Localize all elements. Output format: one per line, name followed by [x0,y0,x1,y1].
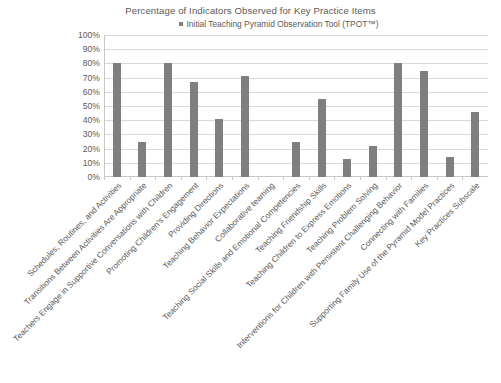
bar-slot [130,35,156,177]
y-axis-tick-label: 70% [56,73,100,82]
legend-square-marker-icon [179,22,183,26]
y-axis-tick-label: 40% [56,116,100,125]
bar-slot [309,35,335,177]
legend-series-label: Initial Teaching Pyramid Observation Too… [187,19,379,29]
chart-legend: Initial Teaching Pyramid Observation Too… [0,19,501,29]
y-axis-tick-label: 50% [56,102,100,111]
y-axis-tick-label: 60% [56,88,100,97]
bar [394,63,402,177]
bar-slot [462,35,488,177]
bar-slot [283,35,309,177]
bar [446,157,454,177]
bar [138,142,146,178]
bar [113,63,121,177]
y-axis-tick-label: 20% [56,144,100,153]
bars-layer [104,35,488,177]
y-axis-tick-label: 30% [56,130,100,139]
bar [420,71,428,178]
x-label-slot: Key Practices Subscale [462,179,488,379]
y-axis-tick-label: 80% [56,59,100,68]
bar-slot [334,35,360,177]
bar [164,63,172,177]
gridline [105,177,488,178]
bar-slot [206,35,232,177]
bar-slot [411,35,437,177]
bar-slot [360,35,386,177]
y-axis-tick-label: 90% [56,45,100,54]
bar-slot [437,35,463,177]
bar [318,99,326,177]
bar [343,159,351,177]
bar [190,82,198,177]
chart-title: Percentage of Indicators Observed for Ke… [0,5,501,16]
y-axis-tick-label: 10% [56,159,100,168]
bar [471,112,479,177]
x-axis-category-labels: Schedules, Routines, and ActivitiesTrans… [104,179,488,379]
bar [241,76,249,177]
bar-slot [386,35,412,177]
bar [369,146,377,177]
y-axis-tick-label: 0% [56,173,100,182]
bar [215,119,223,177]
bar-slot [104,35,130,177]
bar-chart: Percentage of Indicators Observed for Ke… [0,0,501,383]
y-axis-tick-label: 100% [56,31,100,40]
bar-slot [232,35,258,177]
bar [292,142,300,178]
bar-slot [258,35,284,177]
bar-slot [155,35,181,177]
bar-slot [181,35,207,177]
